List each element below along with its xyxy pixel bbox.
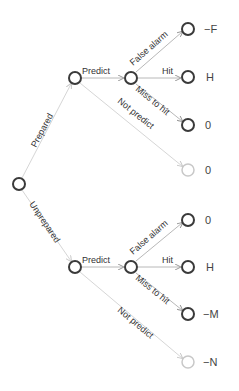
label-unprepared: Unprepared — [27, 200, 62, 245]
prepared-false-alarm-leaf — [182, 23, 194, 35]
label-top-hit: Hit — [162, 66, 173, 76]
payoff-unprepared-hit: H — [206, 261, 214, 273]
payoff-unprepared-miss: −M — [203, 308, 219, 320]
unprepared-predict-node — [125, 261, 137, 273]
label-bot-predict: Predict — [82, 255, 111, 265]
unprepared-not-predict-leaf — [182, 356, 194, 368]
payoff-prepared-not-predict: 0 — [205, 164, 211, 176]
unprepared-node — [69, 261, 81, 273]
prepared-predict-node — [125, 72, 137, 84]
edge-top-not-predict — [80, 83, 182, 166]
payoff-prepared-miss: 0 — [205, 119, 211, 131]
prepared-miss-leaf — [182, 119, 194, 131]
unprepared-false-alarm-leaf — [182, 214, 194, 226]
label-bot-miss: Miss to hit — [134, 273, 172, 307]
label-top-predict: Predict — [82, 66, 111, 76]
label-bot-not-predict: Not predict — [116, 305, 156, 341]
prepared-node — [69, 72, 81, 84]
payoff-prepared-false-alarm: −F — [204, 23, 217, 35]
prepared-not-predict-leaf — [182, 164, 194, 176]
payoff-unprepared-false-alarm: 0 — [205, 214, 211, 226]
prepared-hit-leaf — [182, 71, 194, 83]
root-node — [13, 178, 25, 190]
label-bot-hit: Hit — [162, 255, 173, 265]
decision-tree-diagram: Prepared Unprepared Predict Not predict … — [0, 0, 239, 391]
unprepared-miss-leaf — [182, 308, 194, 320]
payoff-prepared-hit: H — [206, 71, 214, 83]
unprepared-hit-leaf — [182, 261, 194, 273]
label-prepared: Prepared — [29, 112, 55, 149]
payoff-unprepared-not-predict: −N — [203, 356, 217, 368]
